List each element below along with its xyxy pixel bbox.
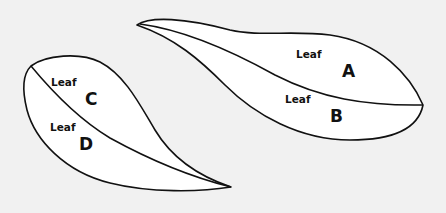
leaf-a-b-outline bbox=[137, 19, 423, 140]
leaf-a-letter: A bbox=[342, 61, 356, 81]
left-leaf-pair: Leaf C Leaf D bbox=[24, 56, 231, 191]
leaf-c-letter: C bbox=[85, 89, 97, 109]
leaf-b-letter: B bbox=[330, 106, 343, 126]
right-leaf-pair: Leaf A Leaf B bbox=[137, 19, 423, 140]
leaf-d-letter: D bbox=[79, 134, 93, 154]
leaf-a-word: Leaf bbox=[296, 48, 322, 60]
leaf-diagram: Leaf A Leaf B Leaf C Leaf D bbox=[0, 0, 446, 213]
leaf-c-word: Leaf bbox=[51, 76, 77, 88]
leaf-b-word: Leaf bbox=[285, 93, 311, 105]
leaf-d-word: Leaf bbox=[50, 121, 76, 133]
